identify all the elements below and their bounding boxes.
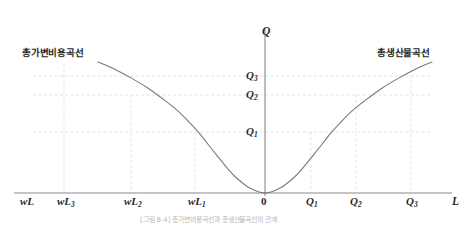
total-product-curve-path	[265, 62, 432, 193]
y-tick-q2-sub: 2	[254, 93, 258, 102]
origin-label: 0	[261, 196, 267, 207]
y-tick-q2: Q2	[246, 89, 258, 102]
figure-caption: [그림 8-4] 총가변비용곡선과 총생산물곡선의 관계	[140, 217, 277, 224]
vertical-gridlines	[64, 64, 411, 193]
y-tick-q3-base: Q	[246, 69, 254, 81]
x-axis-label: L	[452, 196, 459, 208]
x-tick-wl3-base: wL	[57, 195, 71, 207]
x-tick-q1: Q1	[306, 196, 318, 209]
x-tick-wl2: wL2	[124, 196, 142, 209]
total-variable-cost-curve-path	[98, 62, 265, 193]
total-product-curve-label: 총생산물곡선	[377, 48, 430, 58]
y-tick-q3-sub: 3	[254, 74, 258, 83]
x-tick-wl3-sub: 3	[71, 200, 75, 209]
x-tick-q3: Q3	[406, 196, 418, 209]
x-tick-q2: Q2	[350, 196, 362, 209]
x-tick-wl1-base: wL	[188, 195, 202, 207]
x-tick-wl-base: wL	[20, 195, 34, 207]
total-variable-cost-curve-label: 총가변비용곡선	[22, 48, 84, 58]
x-tick-wl3: wL3	[57, 196, 75, 209]
y-tick-q1-base: Q	[246, 125, 254, 137]
x-tick-q3-sub: 3	[414, 200, 418, 209]
x-tick-wl2-base: wL	[124, 195, 138, 207]
x-tick-q1-base: Q	[306, 195, 314, 207]
x-tick-q2-base: Q	[350, 195, 358, 207]
y-tick-q3: Q3	[246, 70, 258, 83]
x-tick-wl1-sub: 1	[202, 200, 206, 209]
figure-canvas: Q L 0 Q3 Q2 Q1 wL wL3 wL2 wL1 Q1 Q2 Q3 총…	[0, 0, 466, 226]
x-tick-wl2-sub: 2	[138, 200, 142, 209]
x-tick-q1-sub: 1	[314, 200, 318, 209]
y-axis-label: Q	[262, 26, 270, 38]
y-tick-q1: Q1	[246, 126, 258, 139]
y-tick-q1-sub: 1	[254, 130, 258, 139]
x-tick-q2-sub: 2	[358, 200, 362, 209]
x-tick-wl1: wL1	[188, 196, 206, 209]
plot-area	[0, 0, 466, 226]
y-tick-q2-base: Q	[246, 88, 254, 100]
x-tick-q3-base: Q	[406, 195, 414, 207]
horizontal-gridlines	[33, 76, 432, 132]
x-tick-wl: wL	[20, 196, 34, 209]
